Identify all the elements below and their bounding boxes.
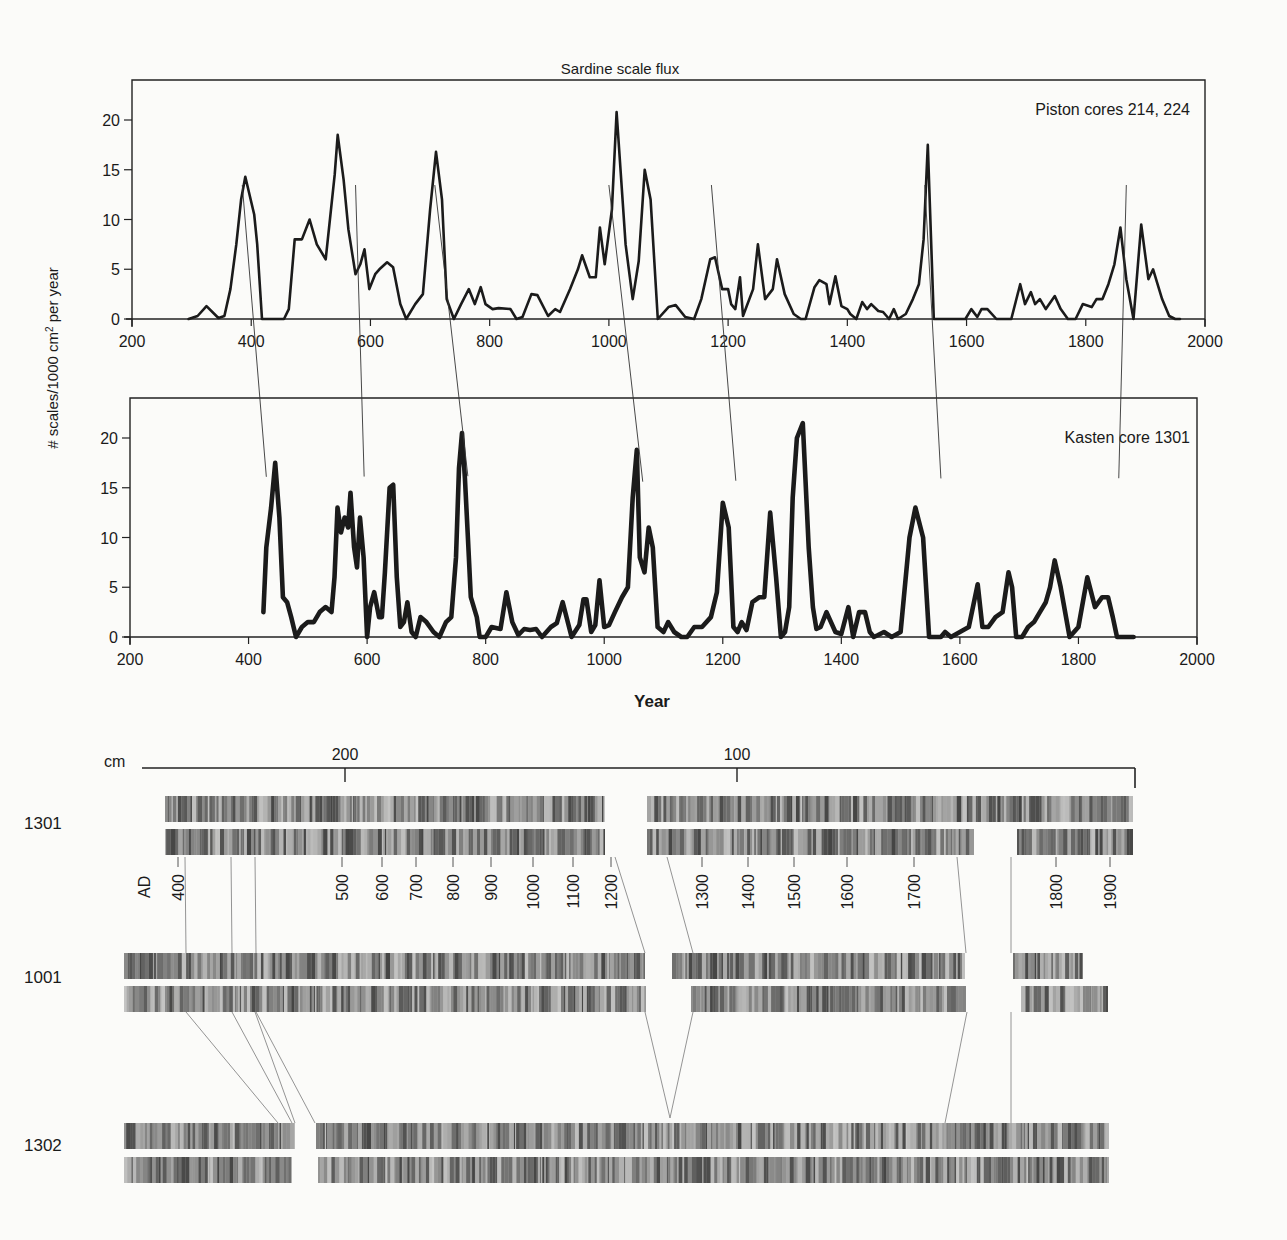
svg-text:0: 0 xyxy=(111,311,120,328)
svg-text:5: 5 xyxy=(109,579,118,596)
svg-text:900: 900 xyxy=(483,874,500,901)
svg-text:600: 600 xyxy=(357,333,384,350)
svg-text:1800: 1800 xyxy=(1068,333,1104,350)
svg-text:AD: AD xyxy=(136,876,153,898)
svg-text:1600: 1600 xyxy=(942,651,978,668)
svg-text:1200: 1200 xyxy=(705,651,741,668)
svg-text:1800: 1800 xyxy=(1048,874,1065,910)
svg-text:200: 200 xyxy=(332,746,359,763)
core-images-section: cm200100AD400500600700800900100011001200… xyxy=(0,730,1287,1240)
svg-text:100: 100 xyxy=(724,746,751,763)
svg-text:Kasten core 1301: Kasten core 1301 xyxy=(1065,429,1191,446)
svg-text:600: 600 xyxy=(374,874,391,901)
svg-text:20: 20 xyxy=(102,112,120,129)
svg-text:1400: 1400 xyxy=(740,874,757,910)
piston-cores-panel: 0510152020040060080010001200140016001800… xyxy=(102,80,1223,350)
svg-text:600: 600 xyxy=(354,651,381,668)
svg-text:1200: 1200 xyxy=(603,874,620,910)
svg-text:10: 10 xyxy=(100,530,118,547)
svg-text:2000: 2000 xyxy=(1179,651,1215,668)
core-label-1001: 1001 xyxy=(24,968,62,988)
svg-text:1400: 1400 xyxy=(824,651,860,668)
svg-text:400: 400 xyxy=(170,874,187,901)
svg-text:1100: 1100 xyxy=(565,874,582,909)
svg-text:15: 15 xyxy=(100,480,118,497)
svg-text:5: 5 xyxy=(111,261,120,278)
svg-text:200: 200 xyxy=(119,333,146,350)
svg-text:1600: 1600 xyxy=(949,333,985,350)
svg-text:500: 500 xyxy=(334,874,351,901)
svg-text:1700: 1700 xyxy=(906,874,923,910)
svg-text:20: 20 xyxy=(100,430,118,447)
svg-text:1000: 1000 xyxy=(591,333,627,350)
svg-text:1500: 1500 xyxy=(786,874,803,910)
svg-text:1800: 1800 xyxy=(1061,651,1097,668)
svg-text:1300: 1300 xyxy=(694,874,711,910)
svg-text:15: 15 xyxy=(102,162,120,179)
svg-text:2000: 2000 xyxy=(1187,333,1223,350)
x-axis-label: Year xyxy=(634,692,670,711)
svg-text:400: 400 xyxy=(235,651,262,668)
svg-text:800: 800 xyxy=(476,333,503,350)
svg-text:Piston cores 214, 224: Piston cores 214, 224 xyxy=(1035,101,1190,118)
core-label-1301: 1301 xyxy=(24,814,62,834)
svg-text:800: 800 xyxy=(472,651,499,668)
kasten-core-panel: 0510152020040060080010001200140016001800… xyxy=(100,398,1215,668)
svg-text:800: 800 xyxy=(445,874,462,901)
svg-text:700: 700 xyxy=(408,874,425,901)
svg-text:0: 0 xyxy=(109,629,118,646)
svg-text:10: 10 xyxy=(102,212,120,229)
svg-text:1200: 1200 xyxy=(710,333,746,350)
svg-text:1400: 1400 xyxy=(830,333,866,350)
core-photographs: cm200100AD400500600700800900100011001200… xyxy=(0,730,1287,1240)
svg-text:400: 400 xyxy=(238,333,265,350)
svg-text:1600: 1600 xyxy=(839,874,856,910)
svg-text:cm: cm xyxy=(104,753,125,770)
scale-flux-charts: Sardine scale flux 051015202004006008001… xyxy=(0,0,1287,730)
svg-text:1000: 1000 xyxy=(586,651,622,668)
figure-title: Sardine scale flux xyxy=(561,60,680,77)
svg-text:1000: 1000 xyxy=(525,874,542,910)
svg-text:1900: 1900 xyxy=(1102,874,1119,910)
core-label-1302: 1302 xyxy=(24,1136,62,1156)
svg-text:200: 200 xyxy=(117,651,144,668)
y-axis-label: # scales/1000 cm2 per year xyxy=(44,267,62,449)
